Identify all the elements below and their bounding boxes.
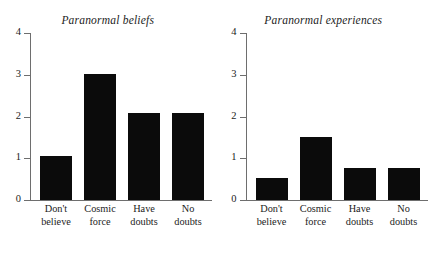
- x-axis-label-line: doubts: [122, 216, 166, 229]
- plot-area: 01234 Don'tbelieveCosmicforceHavedoubtsN…: [216, 0, 431, 254]
- bar: [84, 74, 116, 200]
- charts-row: Paranormal beliefs 01234 Don'tbelieveCos…: [0, 0, 431, 254]
- x-axis-label-line: doubts: [338, 216, 382, 229]
- x-axis-label-line: doubts: [166, 216, 210, 229]
- x-axis-label: Cosmicforce: [294, 203, 338, 228]
- x-axis-label-line: No: [382, 203, 426, 216]
- x-axis-label: Nodoubts: [166, 203, 210, 228]
- bar: [388, 168, 420, 200]
- x-axis-label-line: doubts: [382, 216, 426, 229]
- x-axis-label-line: Don't: [250, 203, 294, 216]
- x-axis-label: Don'tbelieve: [250, 203, 294, 228]
- x-axis-label-line: No: [166, 203, 210, 216]
- chart-panel-paranormal-beliefs: Paranormal beliefs 01234 Don'tbelieveCos…: [0, 0, 216, 254]
- plot-area: 01234 Don'tbelieveCosmicforceHavedoubtsN…: [0, 0, 216, 254]
- x-axis-label-line: believe: [34, 216, 78, 229]
- x-axis-label-line: Have: [338, 203, 382, 216]
- x-axis-label-line: force: [78, 216, 122, 229]
- x-axis-label: Nodoubts: [382, 203, 426, 228]
- bar: [40, 156, 72, 200]
- x-axis-labels: Don'tbelieveCosmicforceHavedoubtsNodoubt…: [216, 203, 431, 247]
- x-axis-label-line: Cosmic: [78, 203, 122, 216]
- bar: [344, 168, 376, 200]
- x-axis-labels: Don'tbelieveCosmicforceHavedoubtsNodoubt…: [0, 203, 216, 247]
- x-axis-label-line: believe: [250, 216, 294, 229]
- x-axis-label-line: Have: [122, 203, 166, 216]
- bar: [256, 178, 288, 200]
- bar: [128, 113, 160, 200]
- x-axis-label: Havedoubts: [122, 203, 166, 228]
- x-axis-label: Havedoubts: [338, 203, 382, 228]
- chart-panel-paranormal-experiences: Paranormal experiences 01234 Don'tbeliev…: [216, 0, 431, 254]
- x-axis-label-line: Cosmic: [294, 203, 338, 216]
- x-axis-label: Don'tbelieve: [34, 203, 78, 228]
- x-axis-label: Cosmicforce: [78, 203, 122, 228]
- bar: [300, 137, 332, 200]
- x-axis-label-line: Don't: [34, 203, 78, 216]
- bar: [172, 113, 204, 200]
- x-axis-label-line: force: [294, 216, 338, 229]
